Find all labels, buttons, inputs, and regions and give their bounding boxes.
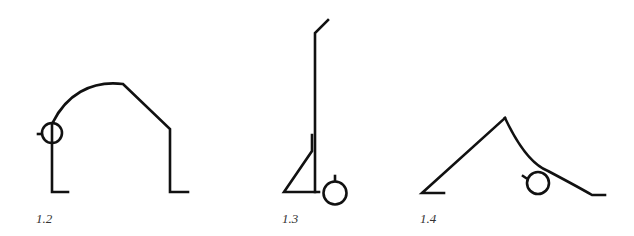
figure-1-4	[422, 118, 605, 195]
figure-label-1-2: 1.2	[36, 211, 52, 227]
ear-tick	[523, 176, 526, 178]
yoga-pose-diagram	[0, 0, 634, 236]
figure-1-2	[38, 83, 188, 192]
figure-label-1-3: 1.3	[282, 211, 298, 227]
front-leg	[422, 118, 505, 193]
arched-back	[53, 83, 188, 192]
figure-1-3	[284, 20, 347, 205]
head-circle	[324, 182, 347, 205]
arm-line	[52, 124, 68, 192]
figure-label-1-4: 1.4	[420, 211, 436, 227]
head-circle	[527, 172, 549, 194]
standing-leg	[315, 20, 328, 192]
back-line	[505, 118, 605, 195]
